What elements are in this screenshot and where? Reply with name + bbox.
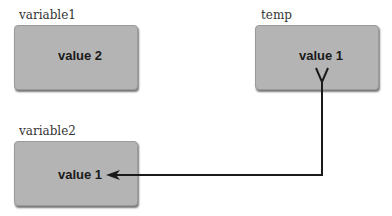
copy-arrow [0, 0, 392, 216]
